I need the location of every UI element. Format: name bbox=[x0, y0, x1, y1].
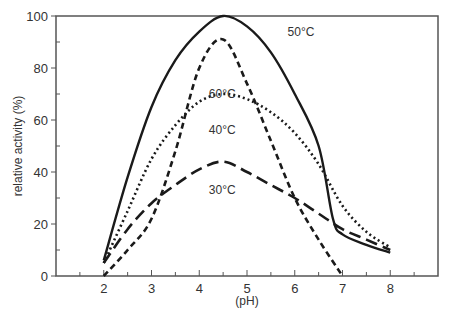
x-axis-title: (pH) bbox=[235, 294, 258, 308]
series-label: 50°C bbox=[288, 25, 315, 39]
y-tick-label: 0 bbox=[41, 269, 48, 284]
y-tick-label: 80 bbox=[34, 61, 48, 76]
series-line-60c bbox=[104, 39, 343, 276]
series-lines bbox=[104, 16, 391, 276]
x-tick-label: 4 bbox=[196, 281, 203, 296]
x-tick-label: 8 bbox=[387, 281, 394, 296]
plot-frame bbox=[56, 16, 438, 276]
series-label: 60°C bbox=[209, 87, 236, 101]
x-axis-ticks: 2345678 bbox=[80, 270, 414, 296]
y-tick-label: 40 bbox=[34, 165, 48, 180]
x-tick-label: 7 bbox=[339, 281, 346, 296]
x-tick-label: 2 bbox=[100, 281, 107, 296]
y-tick-label: 100 bbox=[26, 9, 48, 24]
y-tick-label: 60 bbox=[34, 113, 48, 128]
x-tick-label: 3 bbox=[148, 281, 155, 296]
line-chart: 020406080100 2345678 50°C60°C40°C30°C (p… bbox=[0, 0, 452, 318]
y-axis-title: relative activity (%) bbox=[11, 96, 25, 197]
x-tick-label: 6 bbox=[291, 281, 298, 296]
series-label: 30°C bbox=[209, 183, 236, 197]
y-axis-ticks: 020406080100 bbox=[26, 9, 60, 284]
series-labels: 50°C60°C40°C30°C bbox=[209, 25, 315, 198]
series-label: 40°C bbox=[209, 123, 236, 137]
series-line-50c bbox=[104, 16, 391, 260]
series-line-30c bbox=[104, 162, 391, 263]
y-tick-label: 20 bbox=[34, 217, 48, 232]
